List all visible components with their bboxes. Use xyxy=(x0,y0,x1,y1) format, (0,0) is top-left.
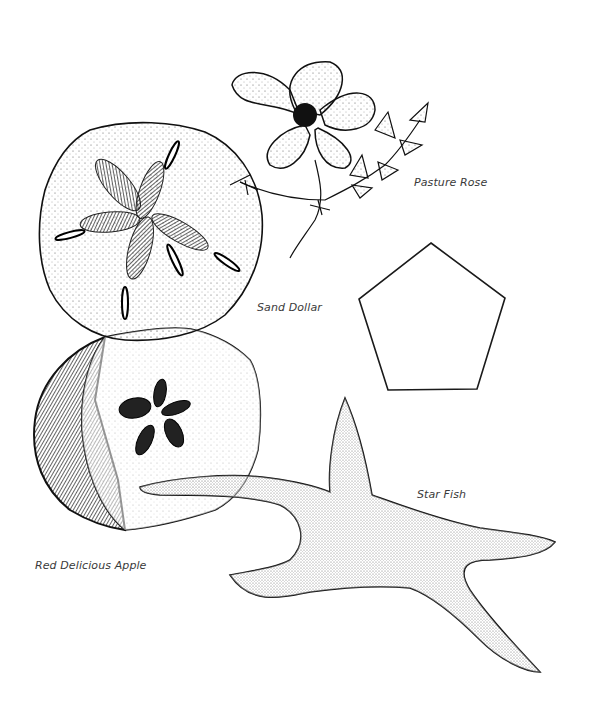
label-star-fish: Star Fish xyxy=(417,488,466,501)
label-pasture-rose: Pasture Rose xyxy=(414,176,487,189)
sand-dollar-drawing xyxy=(39,123,262,341)
illustration-sheet: Pasture Rose Sand Dollar Red Delicious A… xyxy=(0,0,594,726)
label-sand-dollar: Sand Dollar xyxy=(257,301,322,314)
label-red-delicious-apple: Red Delicious Apple xyxy=(35,559,147,572)
apple-drawing xyxy=(34,328,260,530)
pentagon-outline xyxy=(359,243,505,390)
